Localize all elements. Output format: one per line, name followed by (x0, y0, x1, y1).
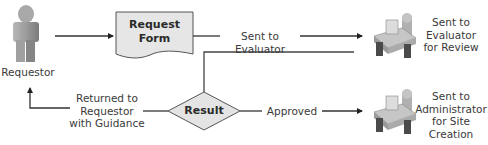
desk-worker-icon (374, 89, 416, 134)
edge-returned-to-requestor (30, 88, 70, 108)
edge-label-sent-to-evaluator: Sent to Evaluator (218, 30, 302, 55)
result-label: Result (176, 104, 232, 118)
person-icon (13, 5, 39, 62)
administrator-label: Sent to Administrator for Site Creation (414, 90, 488, 140)
edge-label-returned: Returned to Requestor with Guidance (68, 92, 146, 130)
desk-worker-icon (374, 13, 416, 58)
evaluator-label: Sent to Evaluator for Review (418, 16, 484, 54)
requestor-label: Requestor (0, 66, 56, 79)
request-form-label: Request Form (116, 18, 193, 46)
edge-label-approved: Approved (262, 105, 322, 118)
edge-evaluator-to-result (204, 52, 354, 92)
